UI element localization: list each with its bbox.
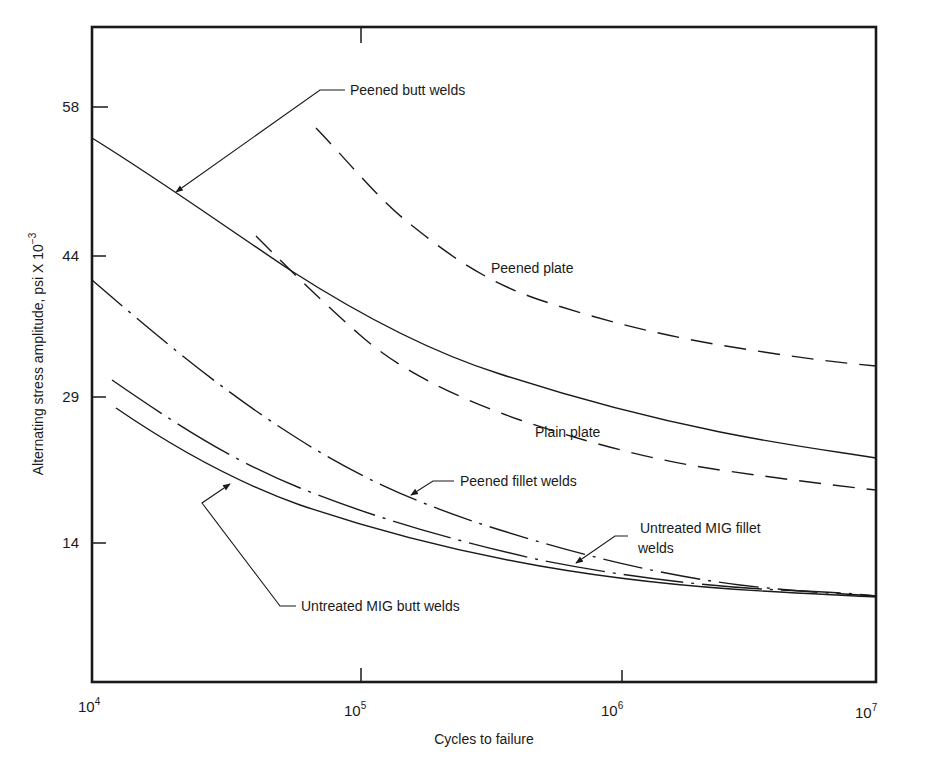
leader-peened-butt-welds (176, 90, 345, 192)
y-axis-title: Alternating stress amplitude, psi X 10−3 (27, 232, 46, 475)
curve-peened-butt-welds (92, 138, 876, 458)
plot-frame (92, 27, 876, 682)
x-tick-label: 104 (78, 696, 101, 715)
x-tick-label: 107 (855, 702, 878, 721)
label-peened-plate: Peened plate (491, 260, 574, 276)
label-untreated-mig-butt-welds: Untreated MIG butt welds (301, 598, 460, 614)
leader-untreated-mig-fillet-welds (576, 536, 628, 563)
label-peened-fillet-welds: Peened fillet welds (460, 473, 577, 489)
curve-untreated-mig-butt-welds (116, 408, 876, 597)
y-tick-label: 58 (62, 98, 79, 115)
x-tick-label: 106 (601, 700, 624, 719)
curve-peened-plate (316, 128, 876, 366)
curve-peened-fillet-welds (92, 280, 876, 596)
leader-peened-fillet-welds (411, 481, 454, 495)
label-peened-butt-welds: Peened butt welds (350, 82, 465, 98)
y-tick-marks (92, 107, 108, 543)
y-tick-label: 44 (62, 247, 79, 264)
x-axis-title: Cycles to failure (434, 731, 534, 747)
y-tick-label: 14 (62, 534, 79, 551)
label-plain-plate: Plain plate (535, 424, 601, 440)
label-untreated-mig-fillet-welds: Untreated MIG fillet (640, 520, 761, 536)
label-untreated-mig-fillet-welds-line2: welds (637, 540, 674, 556)
x-tick-marks (361, 27, 622, 682)
sn-fatigue-chart: 58 44 29 14 104 105 106 107 Cycles to fa… (0, 0, 929, 767)
x-tick-label: 105 (344, 700, 367, 719)
y-tick-label: 29 (62, 388, 79, 405)
leader-untreated-mig-butt-welds (202, 484, 296, 606)
